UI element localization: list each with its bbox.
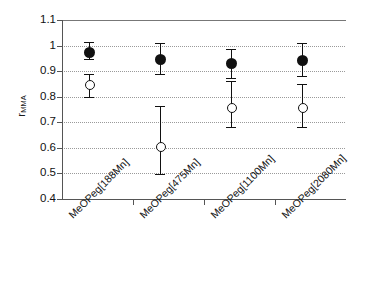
error-bar-cap	[226, 49, 236, 50]
chart-canvas: rMMA 1.110.90.80.70.60.50.4 MeOPeg[188Mn…	[0, 0, 369, 299]
error-bar-cap	[297, 43, 307, 44]
y-axis-tick-label: 1.1	[26, 14, 56, 26]
y-axis-tick-label: 0.6	[26, 142, 56, 154]
x-axis-tick-mark	[204, 199, 205, 205]
data-point-filled-circle	[297, 55, 308, 66]
error-bar-cap	[226, 81, 236, 82]
y-axis-tick-label: 0.5	[26, 167, 56, 179]
y-axis-tick-labels: 1.110.90.80.70.60.50.4	[16, 0, 56, 299]
data-point-open-circle	[85, 80, 95, 90]
error-bar-cap	[226, 127, 236, 128]
plot-top-border	[62, 20, 346, 21]
y-axis-tick-label: 0.4	[26, 193, 56, 205]
error-bar-cap	[84, 59, 94, 60]
y-axis-line	[62, 20, 63, 200]
error-bar-cap	[155, 106, 165, 107]
error-bar-cap	[297, 127, 307, 128]
error-bar-line	[160, 106, 161, 174]
x-axis-tick-mark	[133, 199, 134, 205]
data-point-open-circle	[156, 142, 166, 152]
gridline	[62, 148, 345, 149]
error-bar-cap	[84, 42, 94, 43]
error-bar-cap	[155, 174, 165, 175]
y-axis-tick-label: 0.8	[26, 91, 56, 103]
y-axis-tick-label: 0.9	[26, 65, 56, 77]
x-axis-tick-mark	[275, 199, 276, 205]
y-axis-tick-label: 1	[26, 40, 56, 52]
error-bar-cap	[84, 74, 94, 75]
error-bar-cap	[226, 78, 236, 79]
data-point-open-circle	[227, 103, 237, 113]
error-bar-cap	[84, 97, 94, 98]
error-bar-cap	[155, 43, 165, 44]
y-axis-tick-label: 0.7	[26, 116, 56, 128]
error-bar-cap	[297, 76, 307, 77]
error-bar-cap	[155, 74, 165, 75]
error-bar-cap	[297, 84, 307, 85]
data-point-open-circle	[298, 103, 308, 113]
